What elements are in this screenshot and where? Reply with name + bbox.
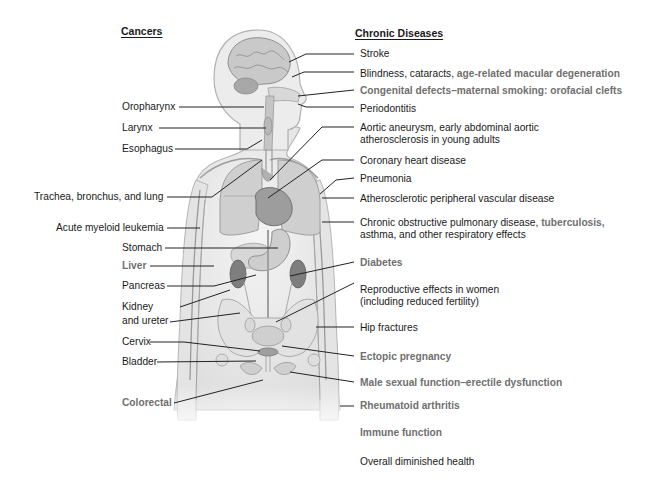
label-aortic-2: atherosclerosis in young adults — [360, 134, 500, 146]
smoking-health-effects-diagram: Cancers Chronic Diseases Oropharynx Lary… — [0, 0, 659, 481]
label-hip-fractures: Hip fractures — [360, 322, 418, 334]
label-copd-2: asthma, and other respiratory effects — [360, 229, 526, 241]
label-tuberculosis: tuberculosis, — [541, 217, 604, 228]
label-trachea-bronchus-lung: Trachea, bronchus, and lung — [34, 191, 163, 203]
label-larynx: Larynx — [122, 122, 153, 134]
label-reproductive-1: Reproductive effects in women — [360, 284, 499, 296]
chronic-diseases-header: Chronic Diseases — [355, 27, 443, 39]
label-esophagus: Esophagus — [122, 143, 173, 155]
label-blindness-black: Blindness, cataracts, — [360, 68, 457, 79]
label-pancreas: Pancreas — [122, 280, 165, 292]
label-reproductive-2: (including reduced fertility) — [360, 296, 479, 308]
label-cervix: Cervix — [122, 336, 151, 348]
label-bladder: Bladder — [122, 356, 157, 368]
label-aortic-1: Aortic aneurysm, early abdominal aortic — [360, 122, 539, 134]
label-atherosclerotic: Atherosclerotic peripheral vascular dise… — [360, 193, 554, 205]
label-oropharynx: Oropharynx — [122, 101, 175, 113]
label-acute-myeloid-leukemia: Acute myeloid leukemia — [56, 222, 164, 234]
label-overall-diminished-health: Overall diminished health — [360, 456, 474, 468]
label-stomach: Stomach — [122, 242, 162, 254]
label-coronary-heart-disease: Coronary heart disease — [360, 155, 466, 167]
label-macular-degeneration: age-related macular degeneration — [457, 68, 620, 79]
label-blindness: Blindness, cataracts, age-related macula… — [360, 68, 620, 80]
label-pneumonia: Pneumonia — [360, 173, 412, 185]
label-periodontitis: Periodontitis — [360, 103, 416, 115]
label-copd: Chronic obstructive pulmonary disease, — [360, 217, 541, 228]
label-copd-1: Chronic obstructive pulmonary disease, t… — [360, 217, 605, 229]
label-kidney: Kidney — [122, 301, 153, 313]
label-liver: Liver — [122, 260, 146, 272]
label-congenital-defects: Congenital defects–maternal smoking: oro… — [360, 85, 622, 97]
label-rheumatoid-arthritis: Rheumatoid arthritis — [360, 400, 460, 412]
label-immune-function: Immune function — [360, 427, 442, 439]
label-ectopic-pregnancy: Ectopic pregnancy — [360, 351, 451, 363]
label-diabetes: Diabetes — [360, 257, 402, 269]
label-stroke: Stroke — [360, 48, 389, 60]
label-and-ureter: and ureter — [122, 315, 168, 327]
cancers-header: Cancers — [121, 25, 162, 37]
label-colorectal: Colorectal — [122, 397, 172, 409]
label-male-sexual-function: Male sexual function–erectile dysfunctio… — [360, 377, 562, 389]
